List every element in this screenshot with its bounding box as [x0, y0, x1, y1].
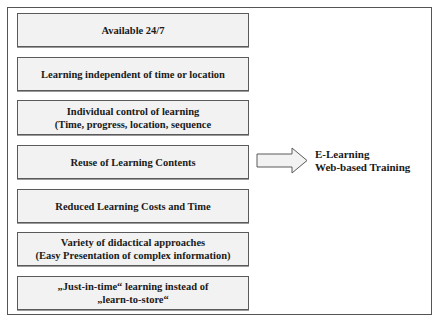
- benefit-label: Available 24/7: [101, 24, 164, 37]
- result-label: E-Learning Web-based Training: [315, 148, 410, 174]
- benefit-sublabel: (Time, progress, location, sequence: [55, 118, 211, 131]
- benefit-box-didactical-variety: Variety of didactical approaches (Easy P…: [17, 232, 249, 266]
- benefit-box-available-24-7: Available 24/7: [17, 13, 249, 47]
- benefit-label: Individual control of learning: [67, 105, 200, 118]
- benefit-sublabel: (Easy Presentation of complex informatio…: [35, 249, 230, 262]
- benefit-box-individual-control: Individual control of learning (Time, pr…: [17, 100, 249, 135]
- benefit-sublabel: „learn-to-store“: [97, 293, 169, 306]
- benefit-label: Learning independent of time or location: [41, 68, 225, 81]
- result-line-web-based-training: Web-based Training: [315, 161, 410, 174]
- right-block-arrow-icon: [256, 147, 309, 174]
- benefit-label: Reuse of Learning Contents: [70, 156, 195, 169]
- result-line-elearning: E-Learning: [315, 148, 410, 161]
- benefit-label: „Just-in-time“ learning instead of: [58, 280, 209, 293]
- benefit-label: Reduced Learning Costs and Time: [55, 200, 210, 213]
- benefit-box-time-location-independent: Learning independent of time or location: [17, 57, 249, 91]
- benefit-box-reuse-contents: Reuse of Learning Contents: [17, 145, 249, 179]
- benefit-box-reduced-costs: Reduced Learning Costs and Time: [17, 189, 249, 223]
- benefit-box-just-in-time: „Just-in-time“ learning instead of „lear…: [17, 276, 249, 310]
- benefit-label: Variety of didactical approaches: [61, 236, 205, 249]
